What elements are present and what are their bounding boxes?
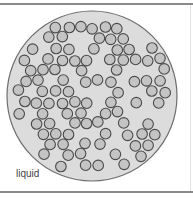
particle bbox=[87, 24, 98, 35]
particle bbox=[93, 160, 104, 171]
particle bbox=[75, 148, 86, 159]
particle bbox=[70, 56, 81, 67]
particle bbox=[89, 44, 100, 55]
particle bbox=[80, 77, 91, 88]
particle bbox=[50, 86, 61, 97]
particle bbox=[137, 129, 148, 140]
particle bbox=[63, 86, 74, 97]
particle bbox=[20, 96, 31, 107]
particle bbox=[100, 108, 111, 119]
particle bbox=[150, 129, 161, 140]
particle bbox=[105, 54, 116, 65]
particle bbox=[81, 98, 92, 109]
particle bbox=[153, 98, 164, 109]
particle bbox=[43, 54, 54, 65]
particle bbox=[21, 76, 32, 87]
particle bbox=[100, 22, 111, 33]
particle bbox=[141, 76, 152, 87]
particle bbox=[62, 108, 73, 119]
particle bbox=[105, 34, 116, 45]
particle bbox=[51, 129, 62, 140]
particle bbox=[38, 129, 49, 140]
particle bbox=[81, 55, 92, 66]
particle bbox=[57, 31, 68, 42]
particle bbox=[147, 43, 158, 54]
particle bbox=[76, 65, 87, 76]
particle bbox=[112, 106, 123, 117]
particle bbox=[94, 33, 105, 44]
particle bbox=[27, 44, 38, 55]
particle bbox=[57, 98, 68, 109]
particle bbox=[100, 128, 111, 139]
particle bbox=[76, 21, 87, 32]
particle bbox=[58, 139, 69, 150]
particle bbox=[111, 65, 122, 76]
particle bbox=[58, 75, 69, 86]
particle bbox=[70, 97, 81, 108]
particle bbox=[129, 76, 140, 87]
particle bbox=[14, 109, 25, 120]
particle bbox=[142, 56, 153, 67]
particle bbox=[110, 149, 121, 160]
particle bbox=[92, 75, 103, 86]
particle bbox=[81, 118, 92, 129]
particle bbox=[155, 76, 166, 87]
particle bbox=[76, 108, 87, 119]
particle bbox=[112, 45, 123, 56]
particle bbox=[25, 65, 36, 76]
particle bbox=[119, 159, 130, 170]
particle bbox=[143, 119, 154, 130]
particle bbox=[113, 87, 124, 98]
particle bbox=[44, 118, 55, 129]
particle bbox=[106, 97, 117, 108]
particle bbox=[31, 119, 42, 130]
particle bbox=[44, 32, 55, 43]
particle bbox=[136, 151, 147, 162]
particle bbox=[63, 129, 74, 140]
particle bbox=[45, 139, 56, 150]
particle bbox=[112, 23, 123, 34]
particle bbox=[56, 161, 67, 172]
particle bbox=[39, 149, 50, 160]
particle bbox=[70, 118, 81, 129]
particle bbox=[131, 97, 142, 108]
particle bbox=[147, 86, 158, 97]
particle bbox=[159, 64, 170, 75]
particle bbox=[31, 98, 42, 109]
particle bbox=[44, 98, 55, 109]
particle bbox=[130, 54, 141, 65]
particle bbox=[37, 109, 48, 120]
particle bbox=[51, 43, 62, 54]
state-label: liquid bbox=[16, 168, 39, 179]
particle bbox=[64, 22, 75, 33]
particle bbox=[155, 53, 166, 64]
particle bbox=[57, 55, 68, 66]
particle bbox=[13, 85, 24, 96]
particle bbox=[124, 44, 135, 55]
particle bbox=[64, 44, 75, 55]
particle bbox=[50, 22, 61, 33]
particle bbox=[33, 75, 44, 86]
particle bbox=[106, 77, 117, 88]
particle bbox=[118, 118, 129, 129]
particle bbox=[95, 139, 106, 150]
particle bbox=[19, 55, 30, 66]
particle bbox=[118, 34, 129, 45]
particle bbox=[63, 150, 74, 161]
particle bbox=[50, 64, 61, 75]
particle bbox=[80, 138, 91, 149]
particle bbox=[122, 130, 133, 141]
particle bbox=[38, 64, 49, 75]
particle bbox=[130, 141, 141, 152]
particle bbox=[37, 86, 48, 97]
particle bbox=[160, 87, 171, 98]
particle bbox=[143, 140, 154, 151]
particle bbox=[93, 117, 104, 128]
particle bbox=[118, 55, 129, 66]
particle bbox=[80, 160, 91, 171]
